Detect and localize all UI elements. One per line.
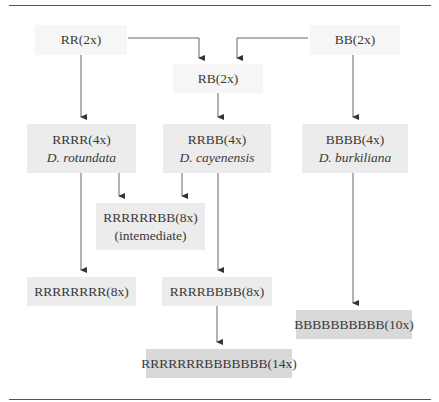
- edge-rr-rb: [128, 38, 199, 58]
- node-rr: RR(2x): [35, 25, 127, 55]
- node-bbbb-genome: BBBB(4x): [326, 131, 385, 149]
- node-rrbb: RRBB(4x) D. cayenensis: [163, 124, 271, 173]
- node-rrrrrrrr: RRRRRRRR(8x): [27, 277, 136, 306]
- node-rb: RB(2x): [173, 64, 263, 93]
- node-bbbb-species: D. burkiliana: [319, 149, 392, 167]
- node-rrrr-genome: RRRR(4x): [52, 131, 111, 149]
- node-bbbbbbbbbb: BBBBBBBBBB(10x): [296, 310, 412, 339]
- node-14x-genome: RRRRRRRBBBBBBB(14x): [141, 355, 296, 373]
- node-rrrr-species: D. rotundata: [47, 149, 116, 167]
- node-rrbb-species: D. cayenensis: [180, 149, 255, 167]
- node-rrrrrrbb-genome: RRRRRRBB(8x): [103, 209, 198, 227]
- node-rr-genome: RR(2x): [61, 31, 102, 49]
- bottom-rule: [9, 399, 431, 400]
- node-bbbbbbbbbb-genome: BBBBBBBBBB(10x): [294, 316, 413, 334]
- node-rb-genome: RB(2x): [198, 70, 239, 88]
- node-bbbb: BBBB(4x) D. burkiliana: [302, 124, 408, 173]
- node-rrrrbbbb-genome: RRRRBBBB(8x): [170, 283, 265, 301]
- node-rrrr: RRRR(4x) D. rotundata: [27, 124, 136, 173]
- node-rrbb-genome: RRBB(4x): [188, 131, 247, 149]
- edge-bb-rb: [237, 38, 308, 58]
- node-14x: RRRRRRRBBBBBBB(14x): [146, 349, 292, 378]
- node-bb: BB(2x): [310, 25, 400, 55]
- node-rrrrrrrr-genome: RRRRRRRR(8x): [34, 283, 129, 301]
- edges: [0, 0, 439, 402]
- node-rrrrrrbb-note: (intemediate): [115, 227, 187, 245]
- node-bb-genome: BB(2x): [335, 31, 376, 49]
- node-rrrrrrbb: RRRRRRBB(8x) (intemediate): [96, 203, 205, 250]
- node-rrrrbbbb: RRRRBBBB(8x): [162, 277, 272, 306]
